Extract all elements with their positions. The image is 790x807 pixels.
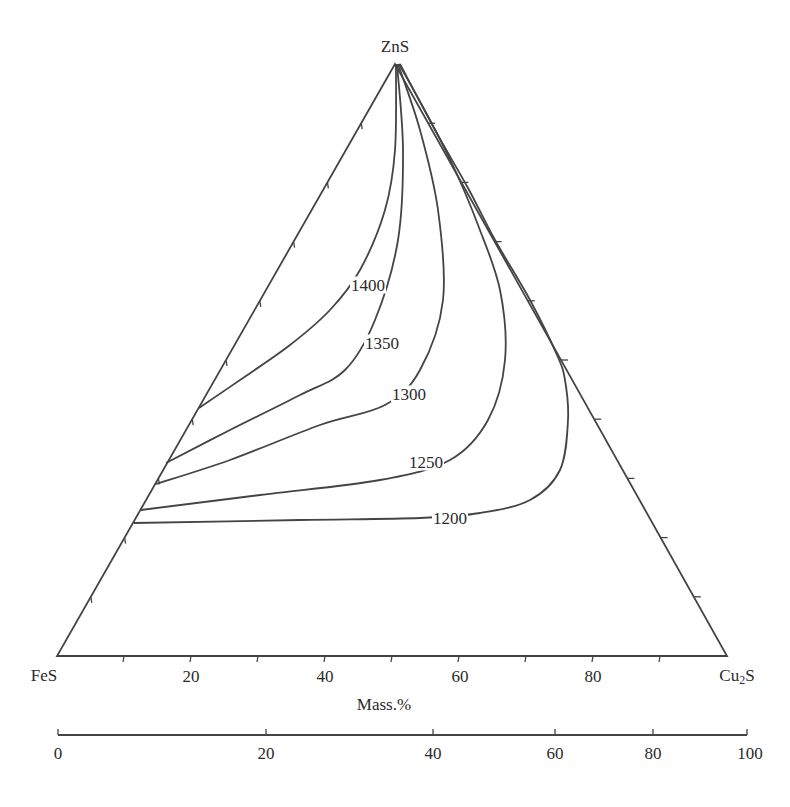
isotherm-1250 — [141, 64, 506, 510]
left-tick — [361, 123, 362, 129]
secondary-scale — [58, 729, 747, 735]
triangle-frame — [57, 64, 727, 656]
scale-label-20: 20 — [258, 745, 275, 762]
vertex-label-right: Cu2S — [719, 667, 754, 686]
scale-label-60: 60 — [547, 745, 564, 762]
scale-label-100: 100 — [737, 745, 763, 762]
isotherm-1300 — [156, 64, 444, 484]
vertex-label-left: FeS — [31, 667, 57, 684]
axis-label-mass-percent: Mass.% — [357, 696, 411, 713]
triangle-outline — [57, 64, 727, 656]
isotherm-label-1200: 1200 — [432, 510, 468, 527]
ternary-diagram — [0, 0, 790, 807]
isotherm-label-1250: 1250 — [408, 454, 444, 471]
scale-label-80: 80 — [645, 745, 662, 762]
isotherm-label-1400: 1400 — [350, 277, 386, 294]
left-tick — [327, 182, 328, 188]
vertex-label-top: ZnS — [381, 38, 409, 55]
bottom-tick-label-60: 60 — [452, 668, 469, 685]
scale-label-0: 0 — [54, 745, 63, 762]
isotherm-label-1300: 1300 — [391, 386, 427, 403]
scale-label-40: 40 — [425, 745, 442, 762]
left-tick — [192, 419, 193, 425]
left-tick — [294, 242, 295, 248]
left-tick — [91, 597, 92, 603]
vertex-label-right-tail: S — [745, 666, 754, 685]
bottom-tick-label-40: 40 — [317, 668, 334, 685]
bottom-tick-label-80: 80 — [585, 668, 602, 685]
isotherm-label-1350: 1350 — [364, 335, 400, 352]
left-tick — [226, 360, 227, 366]
left-tick — [260, 301, 261, 307]
bottom-tick-label-20: 20 — [183, 668, 200, 685]
left-tick — [125, 538, 126, 544]
vertex-label-right-main: Cu — [719, 666, 739, 685]
